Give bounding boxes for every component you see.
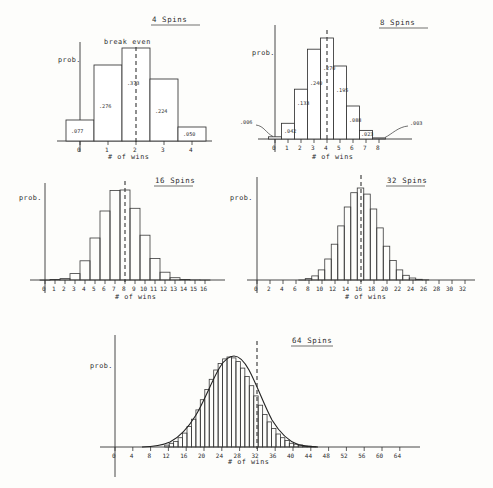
bar — [312, 276, 319, 280]
x-tick-label: 4 — [324, 144, 328, 151]
bar — [272, 428, 276, 447]
chart-32-spins-svg: 32 Spins prob. # of wins — [235, 165, 493, 305]
bar — [416, 279, 423, 280]
bar — [285, 441, 289, 448]
bar — [364, 194, 371, 280]
x-axis-label: # of wins — [108, 153, 149, 161]
x-tick-label: 11 — [150, 285, 158, 292]
y-axis-label: prob. — [252, 49, 275, 57]
x-tick-label: 7 — [112, 285, 116, 292]
x-tick-label: 4 — [130, 452, 134, 459]
bar — [60, 279, 70, 280]
x-tick-label: 0 — [272, 144, 276, 151]
bar — [70, 274, 80, 280]
bar — [396, 270, 403, 280]
x-axis-label: # of wins — [345, 293, 386, 301]
x-tick-label: 3 — [311, 144, 315, 151]
chart-title: 8 Spins — [380, 18, 415, 27]
break-even-label: break even — [104, 38, 151, 46]
bar — [269, 137, 282, 139]
bar — [214, 370, 218, 447]
bar — [191, 419, 195, 447]
figure-page: 4 Spins break even prob. # of wins .077 — [0, 0, 493, 488]
bar — [169, 443, 173, 447]
x-tick-label: 28 — [234, 452, 242, 459]
bars — [299, 188, 429, 280]
x-tick-label: 1 — [105, 146, 109, 153]
bar — [390, 260, 397, 280]
bar — [170, 278, 180, 280]
x-tick-label: 32 — [459, 285, 467, 292]
bar — [160, 272, 170, 280]
bar — [351, 193, 358, 280]
bar — [50, 280, 60, 281]
bar-value: .050 — [183, 131, 196, 137]
y-axis-label: prob. — [19, 194, 42, 202]
bar — [305, 279, 312, 280]
bar — [183, 433, 187, 447]
x-tick-label: 60 — [376, 452, 384, 459]
normal-curve — [142, 356, 318, 447]
bar — [110, 191, 120, 281]
x-tick-label: 7 — [363, 144, 367, 151]
x-tick-label: 16 — [200, 285, 208, 292]
x-tick-label: 6 — [102, 285, 106, 292]
bar — [205, 390, 209, 448]
x-tick-label: 16 — [355, 285, 363, 292]
bar — [140, 235, 150, 280]
bar — [258, 405, 262, 447]
bar — [331, 244, 338, 280]
bar — [276, 434, 280, 447]
x-tick-label: 2 — [62, 285, 66, 292]
chart-8-spins-title-group: 8 Spins — [379, 18, 428, 28]
bar-value: .088 — [349, 117, 362, 123]
x-tick-label: 56 — [358, 452, 366, 459]
chart-title: 16 Spins — [155, 176, 195, 185]
x-tick-label: 1 — [285, 144, 289, 151]
x-tick-label: 26 — [420, 285, 428, 292]
bar-value: .373 — [127, 80, 140, 86]
bar — [267, 422, 271, 447]
x-tick-label: 0 — [254, 285, 258, 292]
x-axis-label: # of wins — [312, 153, 353, 161]
x-tick-label: 2 — [298, 144, 302, 151]
x-tick-label: 48 — [323, 452, 331, 459]
bar — [325, 259, 332, 280]
bars — [165, 357, 316, 447]
x-tick-label: 2 — [267, 285, 271, 292]
x-tick-label: 40 — [287, 452, 295, 459]
x-tick-label: 18 — [368, 285, 376, 292]
y-axis-label: prob. — [58, 56, 81, 64]
chart-4-spins-title-group: 4 Spins — [151, 15, 200, 25]
x-tick-label: 9 — [132, 285, 136, 292]
bar — [280, 438, 284, 447]
chart-4-spins: 4 Spins break even prob. # of wins .077 — [0, 0, 245, 165]
x-tick-label: 4 — [280, 285, 284, 292]
x-tick-label: 20 — [381, 285, 389, 292]
x-tick-label: 8 — [148, 452, 152, 459]
chart-32-spins: 32 Spins prob. # of wins — [235, 165, 493, 305]
x-tick-label: 44 — [305, 452, 313, 459]
chart-8-spins-svg: 8 Spins prob. # of wins — [240, 0, 493, 165]
bar — [223, 359, 227, 447]
bar — [383, 246, 390, 280]
chart-16-spins: 16 Spins prob. # of wins — [0, 165, 245, 305]
x-tick-label: 10 — [316, 285, 324, 292]
x-tick-label: 12 — [329, 285, 337, 292]
leader-line — [385, 126, 408, 138]
bar — [227, 357, 231, 447]
bar-value: .224 — [155, 108, 168, 114]
bar-value: .240 — [310, 80, 323, 86]
bar — [187, 427, 191, 447]
x-tick-label: 22 — [394, 285, 402, 292]
y-axis-label: prob. — [90, 362, 113, 370]
bar — [240, 368, 244, 447]
chart-64-spins: 64 Spins prob. # of wins — [60, 305, 460, 488]
x-tick-label: 14 — [342, 285, 350, 292]
x-tick-label: 1 — [52, 285, 56, 292]
x-tick-label: 13 — [170, 285, 178, 292]
x-tick-label: 0 — [77, 146, 81, 153]
bar — [196, 410, 200, 447]
chart-32-spins-title-group: 32 Spins — [386, 176, 427, 186]
bar — [249, 386, 253, 447]
